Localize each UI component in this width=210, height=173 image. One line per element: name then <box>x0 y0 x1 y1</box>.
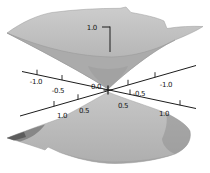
tick-label-sw-outer: 1.0 <box>57 112 67 120</box>
z-axis-top-label: 1.0 <box>87 24 97 32</box>
tick-label-se-outer: 1.0 <box>159 110 169 118</box>
double-cone-plot-canvas: 1.0 0.0 -1.0 -0.5 -0.5 -1.0 1.0 0.5 0.5 … <box>0 0 210 173</box>
tick-label-sw-inner: 0.5 <box>79 107 89 115</box>
lower-cone <box>7 92 190 164</box>
tick-label-se-inner: 0.5 <box>118 102 128 110</box>
lower-cone-surface <box>7 92 190 164</box>
origin-label: 0.0 <box>91 83 101 91</box>
surface-plot-figure: 1.0 0.0 -1.0 -0.5 -0.5 -1.0 1.0 0.5 0.5 … <box>0 0 210 173</box>
tick-label-ne-inner: -0.5 <box>133 90 145 98</box>
tick-label-ne-outer: -1.0 <box>160 81 172 89</box>
tick-label-nw-inner: -0.5 <box>52 87 64 95</box>
tick-label-nw-outer: -1.0 <box>30 78 42 86</box>
